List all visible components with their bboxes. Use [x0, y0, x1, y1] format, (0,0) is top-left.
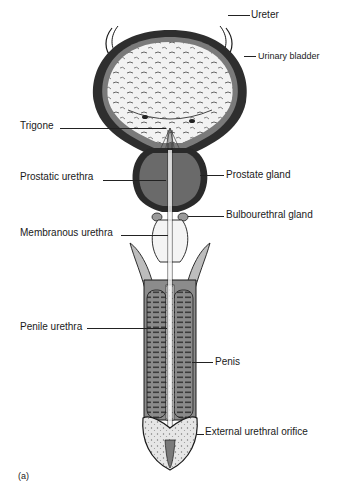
label-trigone: Trigone: [20, 120, 54, 132]
label-penis: Penis: [215, 356, 240, 368]
anatomy-illustration: [0, 0, 341, 486]
label-external-urethral-orifice: External urethral orifice: [205, 426, 308, 438]
leader-urinary-bladder: [244, 56, 256, 57]
figure-panel-label: (a): [18, 471, 29, 481]
label-ureter: Ureter: [251, 9, 279, 21]
leader-penis: [192, 362, 213, 363]
leader-external-urethral-orifice: [196, 434, 204, 435]
label-penile-urethra: Penile urethra: [20, 321, 82, 333]
leader-prostate-gland: [200, 175, 224, 176]
label-prostate-gland: Prostate gland: [226, 169, 291, 181]
leader-prostatic-urethra: [103, 180, 166, 181]
leader-penile-urethra: [87, 328, 167, 329]
label-urinary-bladder: Urinary bladder: [258, 50, 320, 62]
leader-membranous-urethra: [121, 235, 168, 236]
leader-ureter-line: [228, 15, 250, 16]
label-bulbourethral-gland: Bulbourethral gland: [226, 209, 313, 221]
leader-trigone: [60, 128, 166, 129]
label-prostatic-urethra: Prostatic urethra: [20, 171, 93, 183]
label-membranous-urethra: Membranous urethra: [20, 227, 113, 239]
leader-bulbourethral-gland: [188, 216, 224, 217]
